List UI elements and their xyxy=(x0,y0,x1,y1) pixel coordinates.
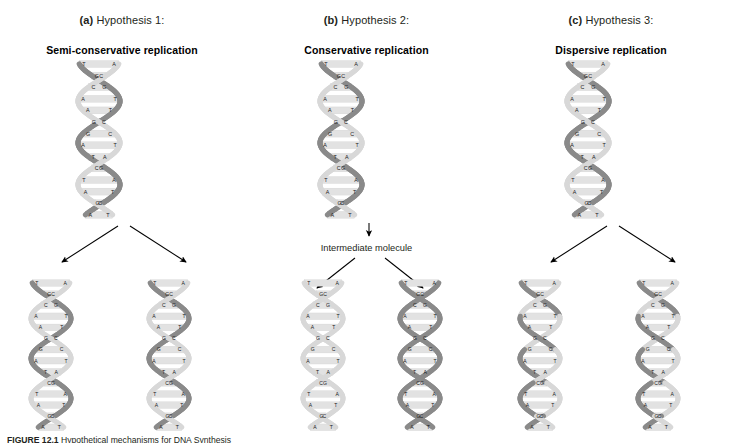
panel-b-hypothesis-label: Hypothesis 2: xyxy=(341,14,409,26)
svg-text:A: A xyxy=(530,424,534,430)
svg-text:C: C xyxy=(413,302,417,308)
svg-text:T: T xyxy=(413,369,416,375)
svg-text:G: G xyxy=(584,200,588,206)
svg-text:C: C xyxy=(316,302,320,308)
svg-text:C: C xyxy=(332,346,336,352)
svg-text:T: T xyxy=(180,402,183,408)
svg-text:T: T xyxy=(431,402,434,408)
svg-text:G: G xyxy=(326,302,330,308)
svg-text:A: A xyxy=(601,177,605,183)
svg-text:T: T xyxy=(62,402,65,408)
svg-text:C: C xyxy=(333,84,337,90)
panel-b-tag: (b) xyxy=(324,14,338,26)
svg-text:T: T xyxy=(153,280,156,286)
svg-text:T: T xyxy=(332,324,335,330)
svg-text:C: C xyxy=(533,302,537,308)
svg-text:C: C xyxy=(341,73,345,79)
svg-text:A: A xyxy=(601,61,605,67)
svg-text:C: C xyxy=(350,131,354,137)
svg-text:A: A xyxy=(552,391,556,397)
svg-text:G: G xyxy=(172,302,176,308)
svg-text:A: A xyxy=(81,142,85,148)
svg-text:T: T xyxy=(642,280,645,286)
svg-text:A: A xyxy=(432,280,436,286)
svg-text:C: C xyxy=(169,291,173,297)
svg-text:C: C xyxy=(91,84,95,90)
svg-text:C: C xyxy=(540,291,544,297)
daughter-dna-helix-c2: TAGCCGATATCGGCATTACGTAATCGAT xyxy=(621,276,695,434)
svg-text:T: T xyxy=(672,358,675,364)
panel-b-hypothesis-line: (b) Hypothesis 2: xyxy=(244,14,489,26)
parent-dna-helix-c: TAGCCGATATCGGCATTACGTAATCGAT xyxy=(549,57,627,222)
svg-text:A: A xyxy=(528,324,532,330)
parent-dna-helix-a: TAGCCGATATCGGCATTACGTAATCGAT xyxy=(60,57,138,222)
svg-text:G: G xyxy=(337,200,341,206)
svg-text:G: G xyxy=(575,131,579,137)
panel-c-subtitle: Dispersive replication xyxy=(489,44,733,56)
svg-text:A: A xyxy=(311,324,315,330)
svg-text:G: G xyxy=(588,165,592,171)
svg-text:C: C xyxy=(172,335,176,341)
panel-a-subtitle: Semi-conservative replication xyxy=(0,44,244,56)
svg-text:T: T xyxy=(334,402,337,408)
svg-text:T: T xyxy=(669,402,672,408)
panel-a-tag: (a) xyxy=(80,14,94,26)
daughter-dna-helix-c1: TAGCCGATATCGGCATTACGTAATCGAT xyxy=(503,276,577,434)
svg-text:T: T xyxy=(547,424,550,430)
svg-text:G: G xyxy=(655,413,659,419)
svg-text:T: T xyxy=(35,280,38,286)
svg-text:T: T xyxy=(44,369,47,375)
svg-text:G: G xyxy=(320,413,324,419)
svg-text:A: A xyxy=(112,177,116,183)
svg-text:G: G xyxy=(581,119,585,125)
svg-text:T: T xyxy=(183,313,186,319)
svg-text:C: C xyxy=(580,84,584,90)
svg-text:C: C xyxy=(661,335,665,341)
svg-text:T: T xyxy=(642,391,645,397)
svg-text:A: A xyxy=(648,424,652,430)
svg-text:C: C xyxy=(54,335,58,341)
svg-text:A: A xyxy=(181,280,185,286)
svg-text:G: G xyxy=(328,131,332,137)
svg-text:C: C xyxy=(102,119,106,125)
svg-text:T: T xyxy=(316,369,319,375)
svg-text:A: A xyxy=(159,424,163,430)
svg-text:T: T xyxy=(434,358,437,364)
svg-text:C: C xyxy=(543,335,547,341)
svg-text:C: C xyxy=(429,346,433,352)
svg-text:C: C xyxy=(588,73,592,79)
svg-text:A: A xyxy=(34,313,38,319)
svg-text:A: A xyxy=(552,280,556,286)
svg-text:T: T xyxy=(524,280,527,286)
panel-hypothesis-2: (b) Hypothesis 2: Conservative replicati… xyxy=(244,0,489,443)
svg-text:G: G xyxy=(341,165,345,171)
panel-c-hypothesis-label: Hypothesis 3: xyxy=(585,14,653,26)
svg-text:A: A xyxy=(112,61,116,67)
svg-text:A: A xyxy=(88,212,92,218)
svg-text:C: C xyxy=(99,73,103,79)
daughter-dna-helix-b1: TAGCCGATATCGGCATTACGTAATCGAT xyxy=(286,276,360,434)
svg-text:G: G xyxy=(169,380,173,386)
svg-text:T: T xyxy=(404,280,407,286)
svg-text:G: G xyxy=(102,84,106,90)
svg-text:A: A xyxy=(323,142,327,148)
svg-text:A: A xyxy=(323,96,327,102)
svg-text:C: C xyxy=(658,291,662,297)
svg-text:T: T xyxy=(549,324,552,330)
svg-text:A: A xyxy=(39,324,43,330)
svg-text:A: A xyxy=(330,212,334,218)
svg-text:T: T xyxy=(35,391,38,397)
replication-arrows-a xyxy=(22,224,222,272)
panel-hypothesis-3: (c) Hypothesis 3: Dispersive replication… xyxy=(489,0,733,443)
svg-text:A: A xyxy=(335,391,339,397)
panel-c-tag: (c) xyxy=(569,14,583,26)
svg-text:G: G xyxy=(54,302,58,308)
svg-text:T: T xyxy=(65,358,68,364)
svg-text:T: T xyxy=(554,358,557,364)
svg-text:A: A xyxy=(575,107,579,113)
svg-text:A: A xyxy=(646,324,650,330)
svg-text:C: C xyxy=(51,291,55,297)
svg-text:G: G xyxy=(166,413,170,419)
svg-text:A: A xyxy=(644,402,648,408)
svg-text:A: A xyxy=(86,107,90,113)
